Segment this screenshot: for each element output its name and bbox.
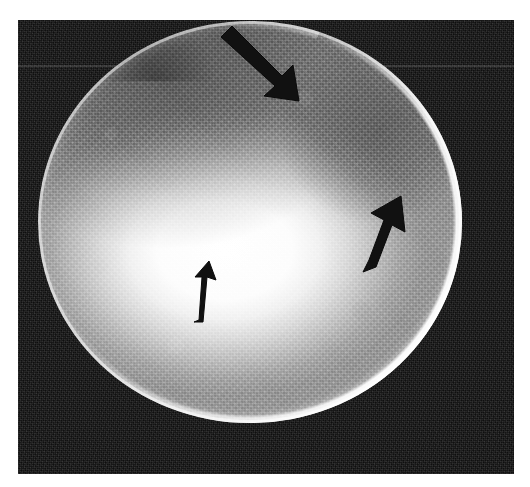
scan-image-panel <box>18 20 514 474</box>
specimen-capsule-rim <box>38 21 462 423</box>
circular-specimen <box>38 21 462 423</box>
figure-root <box>0 0 530 487</box>
